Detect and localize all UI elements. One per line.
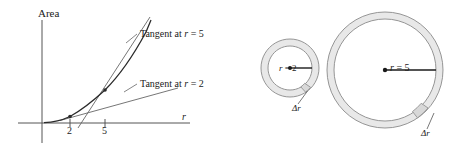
figure-area-and-rings: Area Tangent at r = 5 Tangent at r = 2 2… [0, 0, 464, 150]
leader-line-tangent-5 [126, 34, 137, 43]
small-ring-radius-value: = 2 [283, 63, 297, 73]
large-ring-delta-label: Δr [421, 129, 430, 138]
tangency-point-2 [68, 115, 72, 119]
large-ring-delta-leader [427, 113, 434, 129]
tangent-at-2-label-value: = 2 [188, 78, 204, 89]
label-leader-lines [124, 34, 137, 92]
tangent-at-2-label: Tangent at r = 2 [140, 79, 204, 89]
tangent-at-5-label: Tangent at r = 5 [140, 29, 204, 39]
large-ring-diagram [327, 12, 443, 129]
x-tick-label-2: 2 [67, 126, 72, 136]
tangency-point-5 [103, 88, 107, 92]
x-tick-label-5: 5 [102, 126, 107, 136]
small-ring-radius-label: r = 2 [279, 64, 297, 73]
leader-line-tangent-2 [124, 84, 137, 92]
tangent-at-5-label-text: Tangent at [140, 28, 184, 39]
x-axis-label: r [182, 112, 186, 122]
small-ring-delta-label: Δr [292, 104, 301, 113]
tangent-2-stroke [60, 88, 178, 121]
y-axis-label: Area [38, 8, 59, 19]
tangent-at-2-label-text: Tangent at [140, 78, 184, 89]
tangent-line-at-2 [60, 88, 178, 121]
large-ring-radius-value: = 5 [394, 62, 410, 73]
large-ring-radius-label: r = 5 [390, 63, 410, 73]
tangent-at-5-label-value: = 5 [188, 28, 204, 39]
